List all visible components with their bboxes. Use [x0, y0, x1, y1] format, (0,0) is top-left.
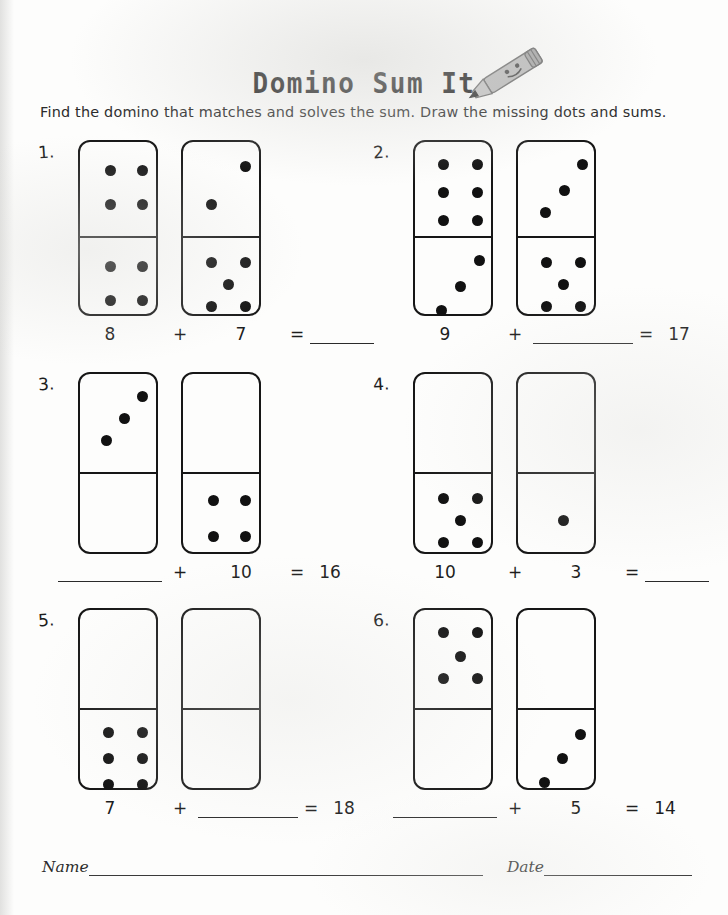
domino-right[interactable] — [181, 140, 261, 316]
pencil-icon — [458, 36, 562, 110]
domino-half-bottom[interactable] — [415, 474, 491, 551]
equals-sign: = — [284, 562, 310, 582]
domino-half-top[interactable] — [183, 142, 259, 238]
domino-pip — [472, 627, 483, 638]
domino-left[interactable] — [78, 608, 158, 790]
problem-number: 4. — [372, 373, 390, 394]
domino-pip — [557, 753, 568, 764]
domino-right[interactable] — [516, 140, 596, 316]
domino-pip — [206, 199, 217, 210]
addend-1: 8 — [58, 324, 162, 344]
domino-half-bottom[interactable] — [183, 474, 259, 551]
date-input-line[interactable] — [544, 861, 692, 876]
domino-half-top[interactable] — [80, 142, 156, 238]
domino-half-top[interactable] — [518, 610, 594, 710]
addend-2: 10 — [198, 562, 284, 582]
domino-half-top[interactable] — [415, 142, 491, 238]
domino-pip — [438, 215, 449, 226]
domino-right[interactable] — [181, 608, 261, 790]
equation-row: 8+7= — [58, 324, 374, 344]
domino-half-bottom[interactable] — [415, 710, 491, 787]
equation-row: +5=14 — [393, 798, 685, 818]
domino-pip — [541, 257, 552, 268]
page-title: Domino Sum It — [253, 66, 476, 100]
domino-pip — [472, 159, 483, 170]
domino-right[interactable] — [181, 372, 261, 554]
domino-half-top[interactable] — [415, 610, 491, 710]
addend-1-blank[interactable] — [58, 568, 162, 582]
domino-pip — [438, 159, 449, 170]
addend-1: 7 — [58, 798, 162, 818]
domino-pip — [223, 279, 234, 290]
addend-2: 3 — [533, 562, 619, 582]
domino-half-bottom[interactable] — [518, 474, 594, 551]
domino-pip — [137, 261, 148, 272]
domino-pip — [438, 627, 449, 638]
domino-half-top[interactable] — [415, 374, 491, 474]
domino-pip — [240, 257, 251, 268]
domino-half-bottom[interactable] — [518, 710, 594, 787]
domino-pip — [137, 391, 148, 402]
domino-half-bottom[interactable] — [415, 238, 491, 313]
sum-result: 16 — [310, 562, 350, 582]
domino-pip — [206, 257, 217, 268]
domino-pip — [103, 779, 114, 790]
domino-half-bottom[interactable] — [80, 238, 156, 313]
domino-left[interactable] — [413, 372, 493, 554]
plus-sign: + — [497, 798, 533, 818]
addend-2-blank[interactable] — [533, 330, 633, 344]
domino-pip — [472, 493, 483, 504]
worksheet-header: Domino Sum It — [0, 68, 728, 98]
domino-right[interactable] — [516, 372, 596, 554]
domino-half-bottom[interactable] — [183, 710, 259, 787]
equation-row: 10+3= — [393, 562, 709, 582]
equals-sign: = — [284, 324, 310, 344]
worksheet-page: Domino Sum It Find the domino that match… — [0, 0, 728, 915]
domino-half-top[interactable] — [183, 374, 259, 474]
domino-pip — [438, 673, 449, 684]
equation-row: 7+=18 — [58, 798, 364, 818]
name-input-line[interactable] — [89, 861, 483, 876]
domino-pip — [540, 207, 551, 218]
footer: Name Date — [42, 858, 692, 876]
domino-pip — [137, 165, 148, 176]
domino-half-bottom[interactable] — [80, 474, 156, 551]
page-edge-shadow — [0, 0, 14, 915]
domino-pip — [105, 261, 116, 272]
domino-pip — [541, 301, 552, 312]
domino-half-top[interactable] — [80, 610, 156, 710]
sum-result-blank[interactable] — [645, 568, 709, 582]
domino-half-top[interactable] — [80, 374, 156, 474]
domino-half-top[interactable] — [518, 142, 594, 238]
domino-pip — [438, 537, 449, 548]
domino-left[interactable] — [413, 140, 493, 316]
domino-half-bottom[interactable] — [80, 710, 156, 787]
domino-pip — [558, 515, 569, 526]
domino-pip — [472, 215, 483, 226]
domino-pip — [474, 255, 485, 266]
problem-number: 5. — [37, 609, 55, 630]
domino-right[interactable] — [516, 608, 596, 790]
domino-pip — [438, 187, 449, 198]
addend-1-blank[interactable] — [393, 804, 497, 818]
domino-pip — [208, 531, 219, 542]
domino-half-top[interactable] — [183, 610, 259, 710]
domino-left[interactable] — [78, 372, 158, 554]
addend-2-blank[interactable] — [198, 804, 298, 818]
plus-sign: + — [162, 798, 198, 818]
domino-pip — [240, 495, 251, 506]
domino-left[interactable] — [413, 608, 493, 790]
domino-half-top[interactable] — [518, 374, 594, 474]
domino-half-bottom[interactable] — [183, 238, 259, 313]
sum-result-blank[interactable] — [310, 330, 374, 344]
domino-pip — [105, 199, 116, 210]
equals-sign: = — [619, 798, 645, 818]
domino-pip — [105, 295, 116, 306]
problem-number: 3. — [37, 373, 55, 394]
addend-2: 5 — [533, 798, 619, 818]
domino-half-bottom[interactable] — [518, 238, 594, 313]
domino-left[interactable] — [78, 140, 158, 316]
sum-result: 18 — [324, 798, 364, 818]
problem-number: 1. — [37, 141, 55, 162]
sum-result: 14 — [645, 798, 685, 818]
